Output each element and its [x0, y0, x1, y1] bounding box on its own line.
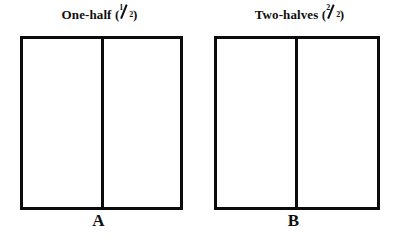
figure-panel-b: Two-halves (22) B: [200, 0, 399, 247]
figure-title-b: Two-halves (22): [200, 6, 399, 23]
fraction-two-halves: 22: [326, 6, 340, 19]
figure-label-b: B: [194, 211, 393, 231]
rectangle-b-divider: [295, 39, 298, 207]
fraction-denominator: 2: [129, 11, 133, 19]
fraction-rectangle-a: [20, 36, 183, 210]
fraction-one-half: 12: [119, 6, 133, 19]
rectangle-b-part-1: [217, 39, 295, 207]
rectangle-a-divider: [101, 39, 104, 207]
figure-label-a: A: [0, 211, 198, 231]
rectangle-b-part-2: [298, 39, 377, 207]
figure-panel-a: One-half (12) A: [0, 0, 199, 247]
figure-title-b-text: Two-halves: [255, 7, 319, 22]
fraction-rectangle-b: [214, 36, 380, 210]
fraction-denominator: 2: [336, 11, 340, 19]
rectangle-a-part-1: [23, 39, 101, 207]
figure-title-b-fraction: (22): [318, 7, 344, 22]
rectangle-a-part-2: [104, 39, 180, 207]
figure-title-a-text: One-half: [62, 7, 112, 22]
figure-title-a: One-half (12): [0, 6, 199, 23]
figure-title-a-fraction: (12): [112, 7, 138, 22]
